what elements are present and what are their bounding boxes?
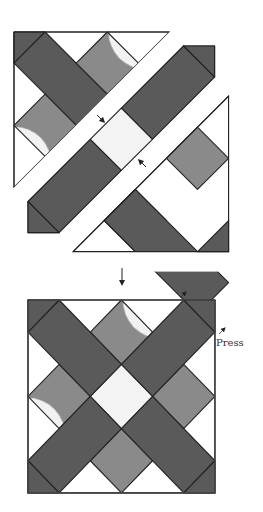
- mask: [229, 60, 263, 260]
- finished-block: [28, 300, 215, 493]
- quilt-assembly-diagram: [0, 0, 263, 512]
- press-arrow-icon: [219, 329, 224, 334]
- press-label: Press: [216, 337, 244, 348]
- mask: [60, 252, 260, 272]
